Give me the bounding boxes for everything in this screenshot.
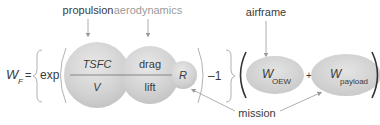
- payload-subscript: payload: [340, 77, 368, 86]
- lift-denominator: lift: [145, 81, 156, 93]
- oew-bubble: [246, 56, 304, 94]
- tsfc-numerator: TSFC: [83, 58, 112, 70]
- minus-one: –1: [208, 69, 222, 83]
- payload-bubble: [311, 54, 380, 96]
- range-symbol: R: [179, 69, 187, 81]
- fuel-weight-subscript: F: [18, 77, 24, 86]
- airframe-label: airframe: [246, 6, 286, 18]
- weights-left-paren: [241, 52, 247, 98]
- mission-label: mission: [238, 107, 275, 119]
- mission-arrow-to-payload: [280, 93, 320, 111]
- aerodynamics-label: aerodynamics: [114, 4, 183, 16]
- right-curly-brace: [226, 50, 235, 102]
- fuel-weight-equation-diagram: propulsion aerodynamics airframe W F = e…: [0, 0, 380, 125]
- drag-numerator: drag: [139, 58, 161, 70]
- exp-function: exp: [40, 68, 60, 82]
- equals-sign: =: [25, 69, 31, 81]
- oew-subscript: OEW: [272, 77, 292, 86]
- propulsion-label: propulsion: [63, 4, 114, 16]
